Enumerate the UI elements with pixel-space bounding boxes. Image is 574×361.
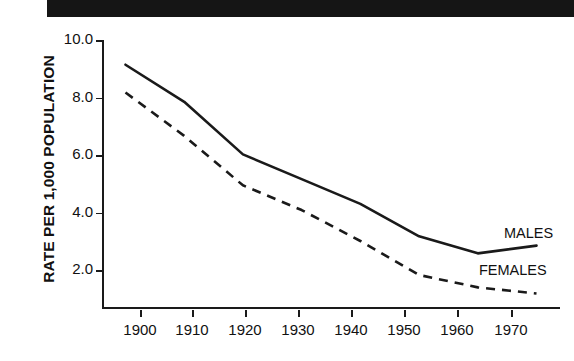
- x-tick-mark: [140, 310, 142, 317]
- y-tick-label: 10.0: [64, 30, 93, 47]
- x-tick-label: 1950: [387, 321, 420, 338]
- series-line-females: [125, 93, 536, 294]
- series-label-females: FEMALES: [479, 262, 547, 278]
- x-tick-label: 1910: [175, 321, 208, 338]
- y-tick-label: 6.0: [72, 145, 93, 162]
- x-tick-label: 1970: [494, 321, 527, 338]
- chart-title: United States, 1900-1970: [47, 0, 574, 1]
- y-axis-title: RATE PER 1,000 POPULATION: [40, 24, 58, 314]
- x-tick-label: 1960: [440, 321, 473, 338]
- x-tick-label: 1940: [334, 321, 367, 338]
- x-tick-mark: [192, 310, 194, 317]
- x-tick-mark: [511, 310, 513, 317]
- x-tick-label: 1930: [281, 321, 314, 338]
- x-tick-label: 1920: [228, 321, 261, 338]
- series-label-males: MALES: [504, 225, 553, 241]
- title-banner: United States, 1900-1970: [47, 0, 574, 17]
- y-tick-label: 2.0: [72, 260, 93, 277]
- x-tick-mark: [298, 310, 300, 317]
- x-tick-label: 1900: [123, 321, 156, 338]
- y-tick-label: 4.0: [72, 203, 93, 220]
- x-tick-mark: [404, 310, 406, 317]
- y-tick-label: 8.0: [72, 88, 93, 105]
- x-tick-mark: [351, 310, 353, 317]
- x-tick-mark: [457, 310, 459, 317]
- plot-area: 10.0 8.0 6.0 4.0 2.0 1900 1910 19: [102, 40, 560, 309]
- x-tick-mark: [245, 310, 247, 317]
- chart-page: United States, 1900-1970 RATE PER 1,000 …: [0, 0, 574, 361]
